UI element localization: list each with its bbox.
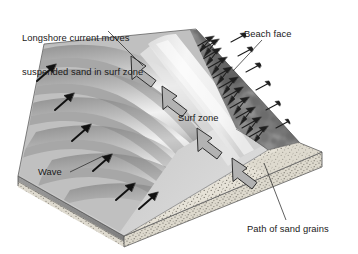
sand-drift-arrow-swash <box>238 46 256 56</box>
sand-drift-arrow-swash <box>256 80 274 90</box>
label-longshore-line1: Longshore current moves <box>22 32 143 43</box>
label-wave: Wave <box>38 166 62 177</box>
diagram-canvas: Longshore current moves suspended sand i… <box>0 0 358 254</box>
label-longshore-current: Longshore current moves suspended sand i… <box>22 9 143 100</box>
sand-drift-arrow-swash <box>266 100 284 110</box>
label-path-of-sand-grains: Path of sand grains <box>247 223 329 234</box>
label-longshore-line2: suspended sand in surf zone <box>22 66 143 77</box>
label-surf-zone: Surf zone <box>178 112 219 123</box>
label-beach-face: Beach face <box>244 28 291 39</box>
sand-drift-arrow-swash <box>246 62 264 72</box>
